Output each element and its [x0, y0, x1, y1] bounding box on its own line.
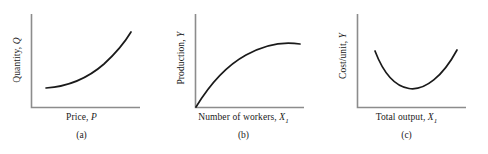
y-axis-label-c-variable: Y	[338, 33, 348, 38]
y-axis-label-a-text: Quantity,	[12, 47, 22, 83]
axis-lines-a	[32, 14, 141, 108]
curve-production-vs-workers	[196, 43, 300, 107]
y-axis-label-c: Cost/unit, Y	[338, 6, 352, 106]
x-axis-label-a: Price, P	[0, 112, 163, 122]
x-axis-label-c-subscript: 1	[434, 117, 438, 125]
curve-cost-per-unit	[375, 50, 457, 89]
x-axis-label-c-text: Total output,	[376, 112, 426, 122]
x-axis-label-b: Number of workers, X1	[162, 112, 325, 125]
chart-panel-b: Production, Y Number of workers, X1 (b)	[162, 0, 325, 154]
y-axis-label-a: Quantity, Q	[12, 10, 26, 110]
y-axis-label-a-variable: Q	[12, 37, 22, 44]
chart-panel-a: Quantity, Q Price, P (a)	[0, 0, 163, 154]
figure-three-panel-curves: Quantity, Q Price, P (a) Production, Y N…	[0, 0, 488, 154]
y-axis-label-b-text: Production,	[176, 39, 186, 84]
x-axis-label-b-subscript: 1	[285, 117, 289, 125]
y-axis-label-c-text: Cost/unit,	[338, 41, 348, 79]
axis-lines-b	[196, 14, 305, 108]
curve-quantity-vs-price	[46, 32, 131, 88]
y-axis-label-b-variable: Y	[176, 31, 186, 36]
x-axis-label-a-variable: P	[91, 112, 97, 122]
chart-panel-c: Cost/unit, Y Total output, X1 (c)	[325, 0, 488, 154]
y-axis-label-b: Production, Y	[176, 8, 190, 108]
x-axis-label-a-text: Price,	[66, 112, 89, 122]
x-axis-label-c: Total output, X1	[325, 112, 488, 125]
x-axis-label-b-text: Number of workers,	[198, 112, 277, 122]
panel-caption-a: (a)	[0, 130, 163, 140]
panel-caption-c: (c)	[325, 130, 488, 140]
panel-caption-b: (b)	[162, 130, 325, 140]
